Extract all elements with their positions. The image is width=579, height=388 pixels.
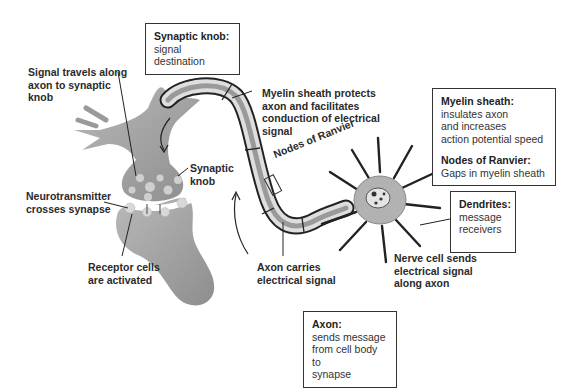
myelin-sheath-desc: insulates axon and increases action pote… [441,108,547,146]
nucleus [366,188,390,208]
myelin-nodes-info-box: Myelin sheath: insulates axon and increa… [432,88,556,186]
label-neurotransmitter: Neurotransmitter crosses synapse [26,190,111,215]
synaptic-knob-info-box: Synaptic knob: signal destination [145,23,240,75]
label-synaptic-knob: Synaptic knob [190,162,234,187]
box-title: Axon: [312,318,388,331]
label-nerve-cell-sends: Nerve cell sends electrical signal along… [394,252,477,290]
box-title: Synaptic knob: [154,30,231,43]
dendrites-info-box: Dendrites: message receivers [450,191,516,253]
dendrite-branch-icon [78,108,106,126]
label-axon-carries: Axon carries electrical signal [257,261,336,286]
presynaptic-terminal-shape [74,87,200,201]
axon-info-box: Axon: sends message from cell body to sy… [303,311,397,388]
box-desc: sends message from cell body to synapse [312,331,388,381]
box-desc: message receivers [459,211,507,236]
box-title: Dendrites: [459,198,507,211]
label-receptor-cells: Receptor cells are activated [88,261,160,286]
label-signal-travels: Signal travels along axon to synaptic kn… [28,66,127,104]
nodes-of-ranvier-title: Nodes of Ranvier: [441,154,547,167]
box-desc: signal destination [154,43,231,68]
nodes-of-ranvier-desc: Gaps in myelin sheath [441,167,547,180]
myelin-sheath-title: Myelin sheath: [441,95,547,108]
